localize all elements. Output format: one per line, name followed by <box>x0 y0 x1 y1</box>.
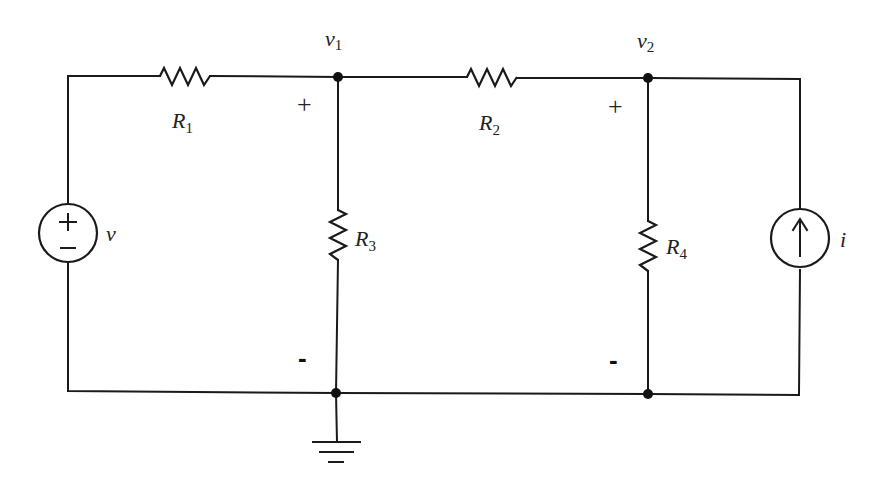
label-v2: v2 <box>637 28 654 55</box>
resistor-r3-icon <box>330 210 346 260</box>
label-voltage-source: v <box>106 221 116 246</box>
node-v1-dot <box>333 72 343 82</box>
wire-r1-to-v1 <box>210 76 338 77</box>
wire-r3-to-ground-node <box>336 260 338 393</box>
current-source-icon <box>771 209 829 267</box>
node-bottom-right-dot <box>643 389 653 399</box>
polarity-v2-plus: + <box>608 92 623 121</box>
ground-icon <box>313 442 360 462</box>
voltage-source-icon <box>39 204 97 262</box>
wire-left-top <box>68 76 160 204</box>
wire-v2-to-current-source <box>648 78 800 208</box>
wire-ground-stem <box>336 393 337 442</box>
wire-left-bottom <box>68 262 336 393</box>
circuit-diagram: v1 v2 R1 R2 R3 R4 v i + + - - <box>0 0 879 496</box>
label-r1: R1 <box>171 108 193 136</box>
node-v2-dot <box>643 73 653 83</box>
label-r2: R2 <box>478 110 500 138</box>
label-r3: R3 <box>354 226 376 254</box>
polarity-v1-minus: - <box>298 343 307 373</box>
polarity-v1-plus: + <box>297 90 312 119</box>
resistor-r4-icon <box>640 221 656 271</box>
node-bottom-left-dot <box>331 388 341 398</box>
resistor-r1-icon <box>160 68 210 85</box>
wire-bottom-right <box>648 270 800 395</box>
label-v1: v1 <box>325 26 342 53</box>
label-current-source: i <box>840 227 846 252</box>
resistor-r2-icon <box>467 69 517 86</box>
wire-bottom-middle <box>336 393 648 394</box>
label-r4: R4 <box>665 234 687 262</box>
polarity-v2-minus: - <box>609 345 618 375</box>
